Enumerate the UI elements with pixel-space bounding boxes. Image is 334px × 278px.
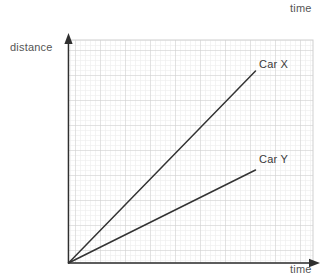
- time-label-top: time: [290, 2, 312, 14]
- x-axis-title-time: time: [290, 263, 312, 275]
- series-label-car-x: Car X: [259, 58, 288, 70]
- y-axis-title-distance: distance: [10, 41, 53, 53]
- grid-area: [68, 40, 313, 263]
- distance-time-graph: time distance time Car X Car Y: [0, 0, 334, 278]
- series-label-car-y: Car Y: [259, 153, 288, 165]
- y-axis-arrowhead: [64, 33, 72, 44]
